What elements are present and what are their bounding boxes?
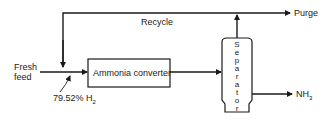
nh3-main: NH [296, 89, 309, 99]
fresh-feed-label-line1: Fresh [14, 62, 37, 72]
hydrogen-fraction-main: 79.52% H [53, 93, 93, 103]
hydrogen-fraction-sub: 2 [93, 99, 96, 105]
fresh-feed-label-line2: feed [14, 72, 32, 82]
separator-letter: r [232, 105, 242, 113]
ammonia-converter-label: Ammonia converter [93, 68, 171, 78]
nh3-label: NH3 [296, 89, 312, 103]
hydrogen-fraction-label: 79.52% H2 [53, 93, 96, 107]
nh3-sub: 3 [309, 95, 312, 101]
recycle-label: Recycle [141, 17, 173, 27]
process-flow-diagram: Recycle Purge Fresh feed Ammonia convert… [0, 0, 333, 121]
mix-point-pointer [60, 76, 70, 92]
purge-label: Purge [294, 8, 318, 18]
